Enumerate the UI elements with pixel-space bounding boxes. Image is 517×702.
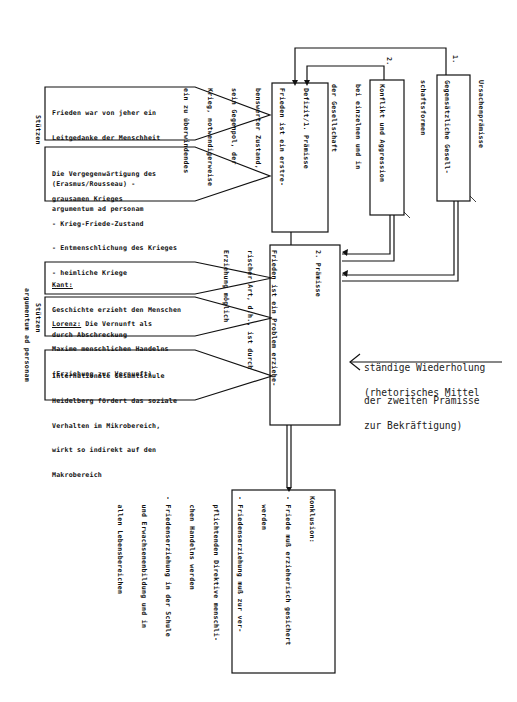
premise-1-line: ein zu überwindendes: [182, 88, 190, 186]
support-box-2-line: Die Vergegenwärtigung des: [52, 170, 177, 178]
support-box-schule-line: Heidelberg fördert das soziale: [52, 397, 177, 405]
premise-2-heading: 2. Prämisse: [314, 250, 322, 387]
support-box-2-line: grausamen Krieges: [52, 195, 177, 203]
support-box-schule-line: Makrobereich: [52, 471, 177, 479]
cause-1-label: Ursachenprämisse: [477, 80, 485, 148]
cause-2-box: Konflikt und Aggression bei einzelnen un…: [322, 84, 402, 182]
support-box-2-line: - Entmenschlichung des Krieges: [52, 244, 177, 252]
conclusion-box: Konklusion: - Friede muß erzieherisch ge…: [108, 496, 332, 645]
support-box-1-line: Leitgedanke der Menschheit: [52, 134, 160, 142]
support-box-schule-line: Verhalten im Mikrobereich,: [52, 422, 177, 430]
premise-1-box: Defizit/1. Prämisse Frieden ist ein erst…: [174, 88, 326, 186]
premise-1-heading: Defizit/1. Prämisse: [302, 88, 310, 186]
conclusion-line: allen Lebensbereichen: [116, 496, 124, 645]
supports-top-label: Stützen: [33, 115, 42, 145]
cause-1-line: Gegensätzliche Gesell-: [443, 80, 451, 174]
premise-1-line: sein Gegenpol, der: [230, 88, 238, 186]
cause-2-line: der Gesellschaft: [330, 84, 338, 182]
premise-2-line: Frieden ist ein Problem erziehe-: [270, 250, 278, 387]
cause-2-line: bei einzelnen und in: [354, 84, 362, 182]
support-box-1-line: Frieden war von jeher ein: [52, 109, 160, 117]
cause-2-line: Konflikt und Aggression: [378, 84, 386, 182]
cause-1-marker: 1.: [451, 55, 459, 64]
premise-2-line: Erziehung möglich: [222, 250, 230, 387]
support-box-lorenz-line: Maxime menschlichen Handelns: [52, 345, 169, 353]
supports-bottom-label: Stützen: [33, 303, 42, 333]
support-box-kant-heading: Kant:: [52, 281, 181, 289]
conclusion-line: - Friedenserziehung in der Schule: [164, 496, 172, 645]
support-box-2-line: - Krieg-Friede-Zustand: [52, 220, 177, 228]
premise-1-line: benswerter Zustand,: [254, 88, 262, 186]
premise-1-line: Frieden ist ein erstre-: [278, 88, 286, 186]
support-box-schule-line: wirkt so indirekt auf den: [52, 446, 177, 454]
support-box-schule: Internationale Gesamtschule Heidelberg f…: [52, 356, 177, 487]
annotation-line: zur Bekräftigung): [364, 420, 480, 431]
conclusion-line: werden: [260, 496, 268, 645]
support-box-schule-line: Internationale Gesamtschule: [52, 372, 177, 380]
conclusion-line: und Erwachsenenbildung und in: [140, 496, 148, 645]
annotation-rhetoric: (rhetorisches Mittel zur Bekräftigung): [364, 365, 480, 442]
support-box-lorenz-heading: Lorenz:: [52, 320, 81, 328]
premise-1-line: Krieg, notwendigerweise: [206, 88, 214, 186]
annotation-line: (rhetorisches Mittel: [364, 387, 480, 398]
premise-2-line: rischer Art, d.h., ist durch: [246, 250, 254, 387]
conclusion-heading: Konklusion:: [308, 496, 316, 645]
cause-2-marker: 2.: [385, 57, 393, 66]
supports-bottom-sublabel: argumentum ad personam: [22, 288, 31, 382]
support-box-lorenz-line: Die Vernunft als: [81, 320, 152, 328]
conclusion-line: - Friede muß erzieherisch gesichert: [284, 496, 292, 645]
cause-1-box: Gegensätzliche Gesell- schaftsformen: [411, 80, 467, 174]
conclusion-line: - Friedenserziehung muß zur ver-: [236, 496, 244, 645]
cause-1-line: schaftsformen: [419, 80, 427, 174]
premise-2-box: 2. Prämisse Frieden ist ein Problem erzi…: [214, 250, 338, 387]
conclusion-line: pflichtenden Direktive menschli-: [212, 496, 220, 645]
conclusion-line: chen Handelns werden: [188, 496, 196, 645]
